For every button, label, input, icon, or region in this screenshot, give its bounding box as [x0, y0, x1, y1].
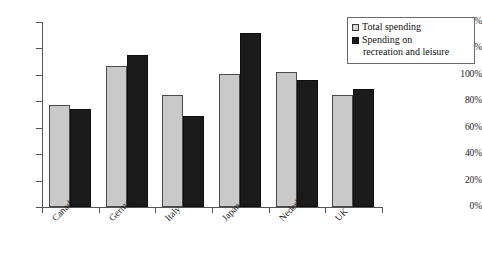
bar [49, 105, 70, 207]
bar [70, 109, 91, 207]
y-axis-tick-label: 20% [438, 176, 482, 186]
legend-item-total-spending: Total spending [352, 21, 470, 33]
legend-label-line2: recreation and leisure [362, 46, 449, 58]
x-axis-tick [269, 207, 270, 213]
bar [162, 95, 183, 207]
bar-group [99, 22, 156, 207]
bar-group [42, 22, 99, 207]
bar [219, 74, 240, 207]
plot-area [42, 22, 382, 207]
bar [276, 72, 297, 207]
chart-legend: Total spending Spending on recreation an… [347, 17, 475, 64]
bar-chart: 0%20%40%60%80%100%120%140% CanadaGermany… [0, 0, 482, 275]
x-axis-tick [99, 207, 100, 213]
y-axis-tick-label: 80% [438, 96, 482, 106]
y-axis-tick-label: 0% [438, 202, 482, 212]
bar [183, 116, 204, 207]
x-axis-tick [325, 207, 326, 213]
bar [106, 66, 127, 207]
bar [332, 95, 353, 207]
bar [353, 89, 374, 207]
bar [127, 55, 148, 207]
x-axis-label-uk: UK [333, 206, 350, 223]
legend-swatch-square-icon [352, 37, 359, 44]
bar-group [155, 22, 212, 207]
y-axis-tick-label: 40% [438, 149, 482, 159]
bar-group [212, 22, 269, 207]
legend-label: Spending on recreation and leisure [362, 34, 449, 58]
legend-label-line1: Spending on [362, 34, 412, 45]
y-axis-tick-label: 60% [438, 123, 482, 133]
y-axis-tick-label: 100% [438, 70, 482, 80]
legend-label: Total spending [362, 21, 421, 33]
x-axis-tick [382, 207, 383, 213]
bar-group [269, 22, 326, 207]
legend-item-recreation-leisure: Spending on recreation and leisure [352, 34, 470, 58]
x-axis-tick [42, 207, 43, 213]
bar [240, 33, 261, 207]
legend-swatch-square-icon [352, 24, 359, 31]
x-axis-tick [212, 207, 213, 213]
x-axis-tick [155, 207, 156, 213]
